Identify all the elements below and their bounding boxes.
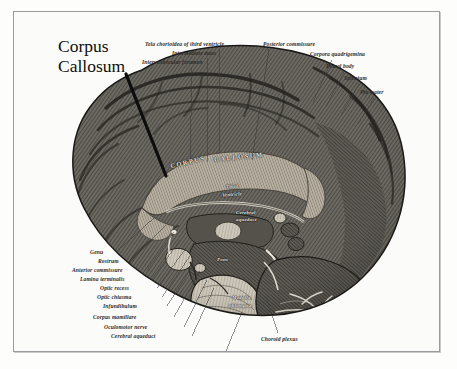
anatomy-label-optic-recess: Optic recess (100, 286, 129, 292)
anatomy-label-pineal-body: Pineal body (326, 64, 354, 70)
corpus-callosum-callout: Corpus Callosum (58, 36, 125, 77)
anatomy-label-corpus-mamillare: Corpus mamillare (93, 315, 136, 321)
anatomy-label-corpora-quadrigemina: Corpora quadrigemina (310, 52, 365, 58)
anatomy-label-lamina-terminalis: Lamina terminalis (80, 277, 124, 283)
anatomy-label-cerebral-aqueduct: Cerebral aqueduct (111, 334, 155, 340)
interior-label-aqueduct: aqueduct (236, 217, 257, 222)
anatomy-label-tela-chorioidea-of-third-ventricle: Tela chorioidea of third ventricle (145, 42, 224, 48)
anatomy-label-anterior-commissure: Anterior commissure (72, 268, 123, 274)
plate-frame: Corpus Callosum Tela chorioidea of third… (13, 11, 440, 352)
interior-label-medulla: Medulla (232, 295, 251, 300)
interior-label-cerebral: Cerebral (236, 210, 256, 215)
anatomy-label-posterior-commissure: Posterior commissure (263, 42, 315, 48)
anatomy-label-pia-mater: Pia mater (360, 90, 383, 96)
anatomy-label-choroid-plexus: Choroid plexus (261, 337, 298, 343)
anatomy-label-genu: Genu (90, 250, 103, 256)
plate-inner: Corpus Callosum Tela chorioidea of third… (14, 12, 439, 351)
anatomy-label-intermediate-mass: Intermediate mass (172, 51, 216, 57)
anatomy-label-rostrum: Rostrum (98, 259, 119, 265)
figure-root: Corpus Callosum Tela chorioidea of third… (0, 0, 457, 369)
anatomy-label-interventricular-foramen: Interventricular foramen (142, 60, 202, 66)
leader-line (226, 312, 242, 351)
interior-label-oblongata: oblongata (229, 303, 251, 308)
anatomy-label-oculomotor-nerve: Oculomotor nerve (104, 325, 147, 331)
anatomy-label-infundibulum: Infundibulum (103, 304, 137, 310)
anatomy-label-optic-chiasma: Optic chiasma (97, 295, 131, 301)
anatomy-label-splenium: Splenium (344, 76, 367, 82)
interior-label-pons: Pons (217, 257, 228, 262)
interior-label-third: Third (226, 184, 239, 190)
